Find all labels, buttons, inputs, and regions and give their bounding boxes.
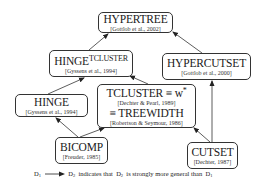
node-citation: [Gottlob et al., 2000] [181,69,232,77]
arrow-right-icon [45,171,65,177]
node-title-superscript: TCLUSTER [89,54,128,63]
edge-hinge-tcluster-to-hypertree [89,34,108,50]
edge-tcluster-to-hinge-tcluster [130,76,148,84]
node-title: HINGETCLUSTER [54,53,128,67]
edge-cutset-to-tcluster [194,128,210,142]
node-cutset: CUTSET [Dechter, 1987] [187,142,238,169]
node-hypercutset: HYPERCUTSET [Gottlob et al., 2000] [162,53,251,80]
node-citation: [Gyssens et al., 1994] [65,67,117,75]
legend-text-2: is strongly more general than [125,170,204,177]
legend: D1 D2 indicates that D2 is strongly more… [34,169,212,178]
node-hypertree: HYPERTREE [Gottlob et al., 2002] [98,12,173,33]
node-citation: [Gyssens et al., 1994] [25,108,77,116]
legend-d1b: D1 [205,169,212,176]
node-title-main: HINGE [54,55,89,67]
node-citation: [Gottlob et al., 2002] [110,25,161,33]
legend-text-1: indicates that [77,170,115,177]
node-title: HINGE [34,96,69,108]
node-title: TCLUSTER ≡ w* [106,85,186,99]
edge-bicomp-to-hinge [56,118,78,137]
node-tcluster-treewidth: TCLUSTER ≡ w* [Dechter & Pearl, 1989] ≡ … [97,84,196,128]
node-hinge-tcluster: HINGETCLUSTER [Gyssens et al., 1994] [49,50,133,77]
node-title-secondary: ≡ TREEWIDTH [109,107,183,119]
node-bicomp: BICOMP [Freuder, 1985] [55,137,108,164]
node-title-superscript: * [183,86,187,95]
node-citation: [Freuder, 1985] [63,153,100,161]
node-title: HYPERCUTSET [167,57,246,69]
node-citation: [Dechter, 1987] [194,158,232,166]
edge-hypercutset-to-hypertree [173,32,202,53]
node-hinge: HINGE [Gyssens et al., 1994] [15,94,88,117]
node-citation-secondary: [Robertson & Seymour, 1986] [110,119,183,127]
node-citation: [Dechter & Pearl, 1989] [118,99,176,107]
legend-d2b: D2 [116,169,123,176]
legend-d1: D1 [34,169,41,176]
legend-d2: D2 [68,169,75,176]
edge-hinge-to-hinge-tcluster [48,78,84,94]
node-title: CUTSET [191,146,233,158]
node-title-main: TCLUSTER ≡ w [106,87,182,99]
node-title: BICOMP [60,141,103,153]
edge-bicomp-to-tcluster [80,128,104,137]
node-title: HYPERTREE [104,13,168,25]
